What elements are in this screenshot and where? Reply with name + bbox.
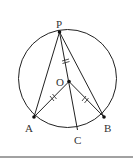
point-A <box>32 115 36 119</box>
segment-PB <box>60 32 105 117</box>
label-P: P <box>56 18 62 30</box>
label-B: B <box>104 122 111 134</box>
point-O <box>67 80 71 84</box>
point-B <box>102 115 106 119</box>
point-P <box>58 30 62 34</box>
label-A: A <box>25 122 33 134</box>
label-O: O <box>56 76 64 88</box>
label-C: C <box>74 134 81 146</box>
geometry-diagram: P O A B C <box>0 0 133 159</box>
